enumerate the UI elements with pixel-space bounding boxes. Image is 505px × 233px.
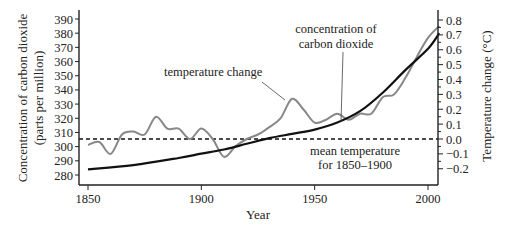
x-tick-label: 2000: [416, 192, 441, 206]
x-tick-label: 1900: [189, 192, 214, 206]
left-y-ticks: 280290300310320330340350360370380390: [54, 13, 79, 183]
left-tick-label: 380: [54, 27, 73, 41]
axes: 280290300310320330340350360370380390 0.8…: [54, 10, 468, 206]
right-tick-label: 0.8: [446, 14, 462, 28]
right-tick-label: −0.2: [446, 162, 469, 176]
left-tick-label: 310: [54, 126, 73, 140]
right-y-axis-label: Temperature change (°C): [479, 30, 494, 161]
x-axis-label: Year: [246, 207, 271, 222]
left-tick-label: 290: [54, 154, 73, 168]
annotation-co2-line1: concentration of: [295, 22, 377, 36]
annotation-temperature-change: temperature change: [164, 65, 263, 79]
left-y-axis-label-line2: (parts per million): [31, 51, 46, 146]
right-tick-label: 0.7: [446, 28, 462, 42]
right-y-ticks: 0.80.70.60.50.40.30.20.10.0−0.1−0.2: [438, 14, 469, 177]
left-tick-label: 370: [54, 41, 73, 55]
left-y-axis-label-line1: Concentration of carbon dioxide: [15, 13, 30, 182]
right-tick-label: 0.4: [446, 73, 462, 87]
right-tick-label: 0.5: [446, 58, 462, 72]
x-ticks: 1850190019502000: [76, 185, 441, 206]
left-tick-label: 360: [54, 55, 73, 69]
right-tick-label: 0.2: [446, 103, 462, 117]
right-tick-label: 0.0: [446, 133, 462, 147]
annotation-co2-leader: [341, 52, 343, 122]
temperature-change-line: [88, 26, 439, 157]
temperature-path: [88, 26, 439, 157]
left-tick-label: 300: [54, 140, 73, 154]
annotation-mean-line2: for 1850–1900: [318, 158, 392, 172]
left-tick-label: 340: [54, 83, 73, 97]
x-tick-label: 1950: [302, 192, 327, 206]
left-tick-label: 390: [54, 13, 73, 27]
annotation-mean-line1: mean temperature: [310, 144, 400, 158]
annotation-co2-line2: carbon dioxide: [299, 37, 374, 51]
annotation-temperature-leader: [262, 82, 285, 100]
left-tick-label: 320: [54, 112, 73, 126]
left-tick-label: 280: [54, 169, 73, 183]
right-tick-label: 0.6: [446, 43, 462, 57]
right-tick-label: 0.1: [446, 118, 462, 132]
x-tick-label: 1850: [76, 192, 101, 206]
right-tick-label: −0.1: [446, 147, 469, 161]
chart-figure: 280290300310320330340350360370380390 0.8…: [0, 0, 505, 233]
right-tick-label: 0.3: [446, 88, 462, 102]
left-tick-label: 350: [54, 69, 73, 83]
left-tick-label: 330: [54, 98, 73, 112]
